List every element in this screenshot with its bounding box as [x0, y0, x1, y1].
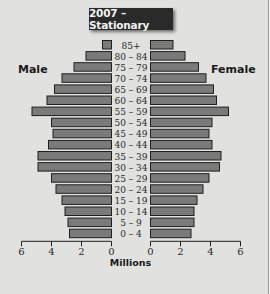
bar-female-1 [151, 52, 186, 61]
right-tick-label: 4 [207, 246, 213, 257]
bar-male-16 [68, 218, 112, 227]
bar-female-11 [151, 163, 220, 172]
bar-female-13 [151, 185, 204, 194]
age-label: 35 – 39 [114, 152, 147, 162]
age-label: 85+ [122, 41, 141, 51]
bar-male-17 [70, 229, 112, 238]
bar-male-8 [53, 129, 112, 138]
bar-male-7 [52, 118, 112, 127]
age-label: 45 – 49 [114, 129, 147, 139]
bar-female-14 [151, 196, 198, 205]
bar-female-8 [151, 129, 210, 138]
age-label: 50 – 54 [114, 118, 147, 128]
bar-female-2 [151, 63, 199, 71]
left-tick-label: 2 [78, 246, 84, 257]
age-label: 20 – 24 [114, 185, 147, 195]
age-label: 25 – 29 [114, 174, 147, 184]
bar-female-9 [151, 140, 213, 149]
bar-female-16 [151, 218, 195, 227]
bar-male-3 [62, 74, 112, 83]
age-label: 80 – 84 [114, 52, 147, 62]
age-label: 75 – 79 [114, 63, 147, 73]
age-label: 0 – 4 [120, 229, 142, 239]
bar-male-0 [103, 41, 112, 50]
age-label: 65 – 69 [114, 85, 147, 95]
bar-male-4 [55, 85, 112, 94]
left-tick-label: 4 [48, 246, 54, 257]
age-label: 55 – 59 [114, 107, 147, 117]
bar-female-3 [151, 74, 207, 83]
bar-female-12 [151, 174, 210, 183]
bar-male-1 [86, 52, 112, 61]
age-label: 10 – 14 [114, 207, 147, 217]
bar-male-9 [49, 140, 112, 149]
right-tick-label: 6 [237, 246, 243, 257]
age-label: 30 – 34 [114, 163, 147, 173]
left-tick-label: 6 [18, 246, 24, 257]
left-tick-label: 0 [108, 246, 114, 257]
bar-male-11 [38, 163, 112, 172]
bar-female-17 [151, 229, 192, 238]
bar-female-0 [151, 41, 174, 50]
bar-male-5 [47, 96, 112, 105]
male-label: Male [18, 63, 48, 76]
bar-female-4 [151, 85, 214, 94]
right-tick-label: 0 [147, 246, 153, 257]
bar-male-14 [62, 196, 112, 205]
bar-male-10 [38, 152, 112, 161]
bar-female-10 [151, 152, 222, 161]
bar-male-13 [56, 185, 112, 194]
age-label: 15 – 19 [114, 196, 147, 206]
x-axes: 00224466 [18, 241, 243, 257]
bar-male-2 [74, 63, 112, 71]
x-axis-title: Millions [110, 257, 152, 268]
bar-female-7 [151, 118, 213, 127]
bar-male-6 [32, 107, 112, 116]
age-label: 70 – 74 [114, 74, 147, 84]
right-tick-label: 2 [177, 246, 183, 257]
age-label: 5 – 9 [120, 218, 142, 228]
age-label: 60 – 64 [114, 96, 147, 106]
age-group-labels: 85+80 – 8475 – 7970 – 7465 – 6960 – 6455… [114, 41, 147, 240]
bar-male-15 [65, 207, 112, 216]
bar-female-15 [151, 207, 195, 216]
bar-female-6 [151, 107, 229, 116]
bar-male-12 [52, 174, 112, 183]
age-label: 40 – 44 [114, 140, 147, 150]
female-label: Female [211, 63, 256, 76]
bar-female-5 [151, 96, 217, 105]
population-pyramid-chart: Male Female 85+80 – 8475 – 7970 – 7465 –… [0, 0, 270, 294]
